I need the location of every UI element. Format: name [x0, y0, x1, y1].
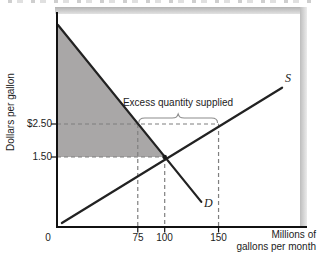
x-tick-label-75: 75 [128, 232, 148, 243]
y-tick-label-1-50: 1.50 [18, 151, 52, 162]
supply-demand-figure: Dollars per gallon $2.50 1.50 0 75 100 1… [0, 0, 318, 263]
y-axis-title: Dollars per gallon [5, 62, 17, 162]
demand-curve-label: D [204, 196, 213, 211]
excess-range-brace [139, 114, 218, 123]
y-tick-label-2-50: $2.50 [18, 118, 52, 129]
supply-demand-chart [0, 0, 318, 263]
x-axis-title-line1: Millions of [240, 229, 316, 240]
excess-quantity-supplied-label: Excess quantity supplied [113, 97, 243, 108]
x-axis-title-line2: gallons per month [216, 241, 316, 252]
x-tick-label-100: 100 [152, 232, 177, 243]
x-tick-label-0: 0 [41, 232, 55, 243]
equilibrium-point [162, 155, 167, 160]
supply-curve-label: S [285, 71, 291, 86]
